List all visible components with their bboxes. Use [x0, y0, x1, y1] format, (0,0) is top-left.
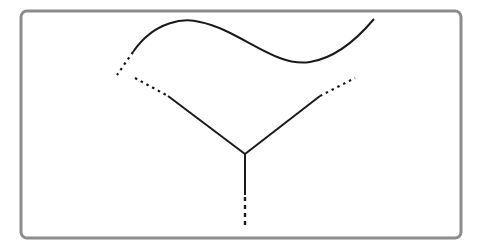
diagram-canvas [0, 0, 481, 248]
left-branch-solid [168, 96, 245, 154]
curve-dotted-extension [117, 52, 133, 75]
right-branch-dotted [320, 78, 355, 96]
left-branch-dotted [135, 78, 168, 96]
right-branch-solid [245, 96, 320, 154]
diagram-frame [21, 11, 461, 238]
wave-curve [133, 19, 374, 63]
